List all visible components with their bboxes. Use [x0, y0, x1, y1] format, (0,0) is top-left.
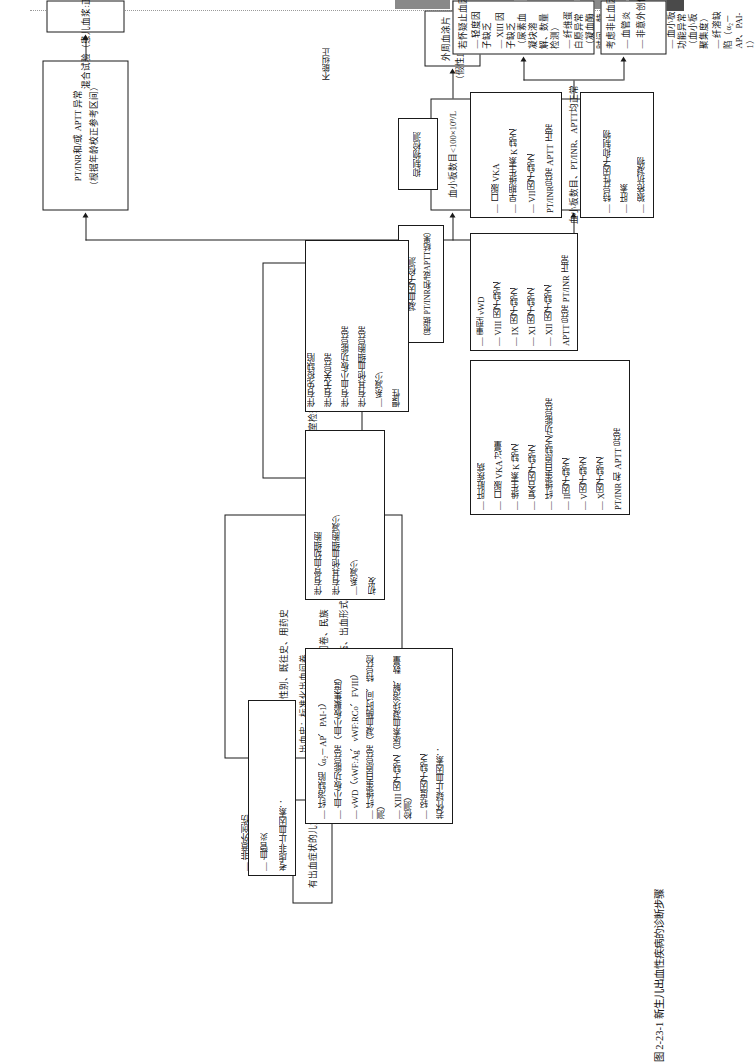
node-aptt-abn-pt-norm-item-0: — XII 因子缺乏: [544, 238, 555, 346]
edge-spine-ptaptt: [85, 216, 86, 240]
node-hemostatic-detail-item-5: — 纤溶缺陷（α₂－AP、PAI-1）: [318, 653, 329, 819]
node-factor-assay-line-1: （根据 PT/INR和/或APTT结果）: [423, 227, 433, 341]
node-hemostatic-detail-item-2: — 纤维蛋白原异常（凝血酶时间、特异检测）: [366, 653, 388, 819]
node-nonhemostatic-detail: 考虑非止血因素： — 血管炎 — 非意外创伤: [248, 700, 296, 876]
node-hemostatic-detail-item-4: — 血小板功能异常（血小板聚集度）: [334, 653, 345, 819]
node-pt-abn-aptt-norm-item-2: — 口服 VKA: [491, 97, 502, 213]
edge-platelet-smear: [452, 72, 453, 98]
node-mixing-study-label: 混合试验（患儿血浆:正常血浆=1:1）: [80, 0, 91, 88]
node-chronic-item-3: 伴有无关异常: [324, 245, 335, 407]
node-inhibitor-results: — 狼疮抗凝物 — 肝素 — 特异性因子抑制物: [580, 92, 654, 218]
node-chronic-box: 慢性 —系减少 伴有其他血细胞异常 伴有血小板功能异常 伴有无关异常 伴有免疫缺…: [305, 240, 409, 412]
figure-caption: 图 2-23-1 新生儿出血性疾病的诊断步骤: [651, 889, 666, 1062]
node-hemostatic-item-5: — 纤溶缺陷（α₂－AP、PAI-1）: [711, 6, 755, 48]
node-hemostatic-detail-item-1: — XIII 因子缺乏（尿素血凝块溶解、数量检测）: [393, 653, 415, 819]
node-inhibitor-results-item-1: — 肝素: [620, 97, 631, 213]
node-pt-abn-aptt-norm-title: PT/INR异常 APTT 正常: [545, 97, 556, 213]
edge-coagnormal-down-arrow: [620, 56, 626, 61]
node-pt-aptt-abnormal-line-0: PT/INR和/或 APTT 异常: [72, 89, 83, 180]
node-both-abnormal-item-4: — 复合因子缺乏: [528, 365, 539, 510]
node-smear-line-0: 外周血涂片: [440, 16, 451, 61]
node-chronic-item-4: 伴有免疫缺陷: [307, 245, 318, 407]
edge-spine-platelet: [452, 216, 453, 240]
node-pt-abn-aptt-norm-item-0: — VII因子缺乏: [527, 97, 538, 213]
node-hemostatic: 若怀疑止血因素： — 轻度因子缺乏 — XIII 因子缺乏（尿素血凝块溶解、数量…: [452, 0, 594, 54]
node-hemostatic-item-4: — 血小板功能异常（血小板聚集度）: [665, 6, 709, 48]
node-aptt-abn-pt-norm-title: APTT 异常 PT/INR 正常: [561, 238, 572, 346]
node-both-abnormal-item-7: — 肝脏疾病: [477, 365, 488, 510]
node-hemostatic-title: 若怀疑止血因素：: [457, 6, 468, 48]
node-inhibitor-results-item-0: — 狼疮抗凝物: [637, 97, 648, 213]
node-mixing-study: 混合试验（患儿血浆:正常血浆=1:1）: [46, 0, 124, 32]
edge-coagnormal-up-arrow: [520, 56, 526, 61]
node-pt-abn-aptt-norm-item-1: — 早期维生素 K 缺乏: [509, 97, 520, 213]
node-inhibitor-detection: 抑制物检测: [398, 118, 438, 190]
node-inhibitor-results-item-2: — 特异性因子抑制物: [603, 97, 614, 213]
edge-coagnormal-up: [523, 60, 524, 80]
node-inhibitor-detection-label: 抑制物检测: [413, 132, 424, 177]
node-chronic-title: 慢性: [392, 245, 403, 407]
node-hemostatic-detail-title: 若怀疑止血因素：: [436, 653, 447, 819]
edge-spine-ptaptt-arrow: [82, 212, 88, 217]
node-acute-item-2: 伴有骨血幼细胞: [314, 435, 325, 595]
node-both-abnormal-item-0: — X因子缺乏: [596, 365, 607, 510]
node-aptt-abn-pt-norm-item-4: — 重型 vWD: [476, 238, 487, 346]
node-nonhemostatic-title: 考虑非止血因素：: [605, 6, 616, 48]
node-coag-normal-label: 血小板数目、PT/INR、APTT均正常: [568, 85, 579, 224]
node-chronic-item-0: —系减少: [375, 245, 386, 407]
edge-spine-platelet-arrow: [449, 212, 455, 217]
node-hemostatic-item-1: — XIII 因子缺乏（尿素血凝块溶解、数量检测）: [494, 6, 560, 48]
node-acute-title: 初发: [368, 435, 379, 595]
node-aptt-abn-pt-norm: APTT 异常 PT/INR 正常 — XII 因子缺乏 — XI 因子缺乏 —…: [470, 233, 578, 351]
node-both-abnormal-item-5: — 维生素 K 缺乏: [511, 365, 522, 510]
node-factor-assay-line-0: 凝血因子检测: [408, 257, 419, 311]
node-both-abnormal-item-3: — 纤维蛋白原缺乏/功能异常: [545, 365, 556, 510]
node-platelet-low-label: 血小板数目<100×10⁹/L: [447, 111, 458, 198]
node-nonhemostatic-item-0: — 血管炎: [620, 6, 631, 48]
node-both-abnormal-item-6: — 口服 VKA 过量: [494, 365, 505, 510]
edge-coagnormal-split: [523, 79, 623, 80]
edge-coagnormal-down: [623, 60, 624, 80]
node-start-label: 有出血症状的儿童: [307, 815, 318, 887]
node-nonhemostatic-detail-item-0: — 血管炎: [260, 705, 271, 871]
node-aptt-abn-pt-norm-item-1: — XI 因子缺乏: [527, 238, 538, 346]
node-acute-item-1: 伴有其他血细胞减少: [332, 435, 343, 595]
node-hemostatic-detail: 若怀疑止血因素： — 轻度因子缺乏 — XIII 因子缺乏（尿素血凝块溶解、数量…: [305, 648, 453, 824]
edge-coagnormal-stub: [573, 80, 574, 98]
node-hemostatic-detail-item-3: — vWD（vWF:Ag、vWF:RCo、FVIII）: [350, 653, 361, 819]
node-nonhemostatic: 考虑非止血因素： — 血管炎 — 非意外创伤: [600, 0, 666, 54]
node-nonhemostatic-item-1: — 非意外创伤: [635, 6, 646, 48]
node-chronic-item-2: 伴有血小板功能异常: [341, 245, 352, 407]
node-both-abnormal: PT/INR 和 APTT 异常 — X因子缺乏 — V因子缺乏 — II因子缺…: [470, 360, 630, 515]
node-nonhemostatic-detail-item-1: — 非意外创伤: [241, 705, 252, 871]
node-acute-item-0: —系减少: [350, 435, 361, 595]
node-hemostatic-item-0: — 轻度因子缺乏: [470, 6, 492, 48]
node-nonhemostatic-detail-title: 考虑非止血因素：: [279, 705, 290, 871]
node-aptt-abn-pt-norm-item-2: — IX 因子缺乏: [510, 238, 521, 346]
node-pt-abn-aptt-norm: PT/INR异常 APTT 正常 — VII因子缺乏 — 早期维生素 K 缺乏 …: [470, 92, 562, 218]
node-both-abnormal-title: PT/INR 和 APTT 异常: [613, 365, 624, 510]
node-pt-aptt-abnormal-line-1: （根据年龄校正参考区间）: [88, 81, 99, 189]
edge-label-not-corrected: 不能纠正: [322, 48, 334, 80]
node-both-abnormal-item-2: — II因子缺乏: [562, 365, 573, 510]
node-hemostatic-detail-item-0: — 轻度因子缺乏: [420, 653, 431, 819]
node-aptt-abn-pt-norm-item-3: — VIII 因子缺乏: [493, 238, 504, 346]
node-chronic-item-1: 伴有其他血细胞异常: [358, 245, 369, 407]
node-acute: 初发 —系减少 伴有其他血细胞减少 伴有骨血幼细胞: [305, 430, 385, 600]
node-both-abnormal-item-1: — V因子缺乏: [579, 365, 590, 510]
